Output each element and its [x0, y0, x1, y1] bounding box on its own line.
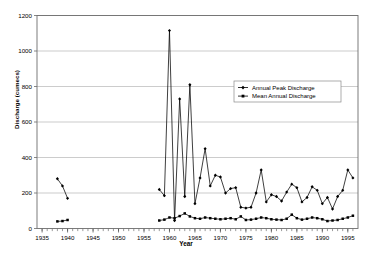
data-point: [255, 191, 258, 194]
data-point: [173, 217, 176, 220]
data-point: [285, 217, 288, 220]
y-tick-label: 600: [22, 118, 33, 125]
data-point: [219, 175, 222, 178]
series-mean-annual-discharge: [56, 212, 354, 222]
data-point: [204, 147, 207, 150]
y-tick-label: 0: [29, 225, 33, 232]
data-point: [193, 202, 196, 205]
x-axis-title: Year: [0, 240, 372, 247]
data-point: [66, 219, 69, 222]
data-point: [311, 216, 314, 219]
data-point: [214, 217, 217, 220]
data-point: [178, 215, 181, 218]
data-point: [270, 218, 273, 221]
data-point: [61, 220, 64, 223]
data-point: [209, 217, 212, 220]
data-point: [224, 217, 227, 220]
gridlines-group: [37, 16, 358, 194]
y-tick-label: 400: [22, 154, 33, 161]
data-point: [189, 215, 192, 218]
chart-legend: Annual Peak DischargeMean Annual Dischar…: [234, 81, 341, 102]
discharge-chart: 020040060080010001200 193519401945195019…: [0, 0, 372, 259]
data-point: [199, 217, 202, 220]
data-point: [306, 217, 309, 220]
data-point: [296, 217, 299, 220]
data-point: [158, 219, 161, 222]
data-point: [168, 216, 171, 219]
data-point: [214, 174, 217, 177]
data-point: [265, 217, 268, 220]
data-point: [326, 220, 329, 223]
data-series-group: [56, 29, 355, 223]
y-tick-label: 1000: [18, 47, 32, 54]
y-tick-labels-group: 020040060080010001200: [18, 12, 37, 232]
legend-label: Annual Peak Discharge: [252, 85, 315, 91]
x-tick-marks-group: [42, 229, 353, 233]
chart-plot-area: 020040060080010001200 193519401945195019…: [0, 0, 372, 259]
data-point: [234, 218, 237, 221]
data-point: [255, 217, 258, 220]
data-point: [229, 217, 232, 220]
y-tick-label: 800: [22, 83, 33, 90]
data-point: [245, 219, 248, 222]
data-point: [352, 214, 355, 217]
legend-marker: [242, 95, 245, 98]
data-point: [219, 218, 222, 221]
data-point: [244, 206, 247, 209]
data-point: [234, 186, 237, 189]
data-point: [239, 206, 242, 209]
data-point: [184, 212, 187, 215]
data-point: [240, 215, 243, 218]
data-point: [341, 217, 344, 220]
data-point: [331, 207, 334, 210]
data-point: [347, 216, 350, 219]
data-point: [178, 97, 181, 100]
data-point: [336, 219, 339, 222]
data-point: [168, 29, 171, 32]
data-point: [249, 206, 252, 209]
y-tick-label: 200: [22, 189, 33, 196]
data-point: [260, 216, 263, 219]
data-point: [183, 195, 186, 198]
data-point: [260, 168, 263, 171]
data-point: [316, 217, 319, 220]
data-point: [291, 213, 294, 216]
data-point: [194, 217, 197, 220]
data-point: [56, 220, 59, 223]
data-point: [66, 197, 69, 200]
legend-label: Mean Annual Discharge: [252, 93, 316, 99]
data-point: [209, 184, 212, 187]
data-point: [198, 176, 201, 179]
data-point: [331, 219, 334, 222]
data-point: [163, 218, 166, 221]
data-point: [204, 216, 207, 219]
y-axis-title: Discharge (cumecs): [13, 40, 20, 160]
series-line: [57, 179, 67, 199]
data-point: [250, 218, 253, 221]
data-point: [321, 218, 324, 221]
y-tick-label: 1200: [18, 12, 32, 19]
data-point: [280, 219, 283, 222]
data-point: [275, 218, 278, 221]
data-point: [301, 218, 304, 221]
data-point: [188, 83, 191, 86]
